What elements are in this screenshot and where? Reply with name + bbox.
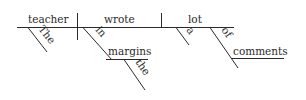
subject-word: teacher bbox=[28, 13, 70, 25]
object-word: lot bbox=[188, 13, 203, 25]
object-preposition-word: of bbox=[219, 24, 235, 40]
verb-prep-object-word: margins bbox=[108, 45, 151, 57]
verb-preposition-word: in bbox=[93, 24, 109, 40]
object-prep-object-word: comments bbox=[233, 45, 288, 57]
sentence-diagram: teacher wrote lot The in margins the a o… bbox=[0, 0, 306, 100]
verb-word: wrote bbox=[104, 13, 135, 25]
object-article-word: a bbox=[184, 24, 197, 36]
